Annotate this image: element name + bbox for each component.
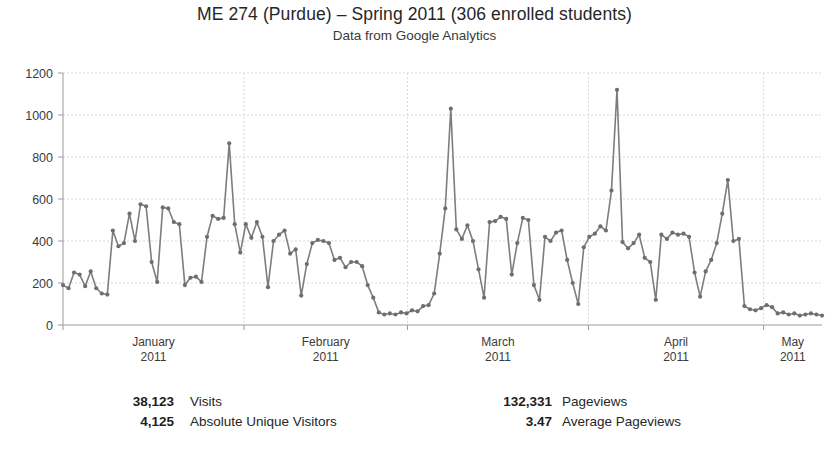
x-tick-month: March xyxy=(481,335,514,349)
x-axis-tick-label: May2011 xyxy=(733,335,829,365)
stat-value: 38,123 xyxy=(108,392,174,412)
plot-area: 020040060080010001200 xyxy=(0,60,829,330)
x-tick-month: February xyxy=(302,335,350,349)
x-tick-year: 2011 xyxy=(733,350,829,365)
stat-row: 4,125 Absolute Unique Visitors xyxy=(108,412,337,432)
svg-text:600: 600 xyxy=(32,193,53,207)
stat-label: Pageviews xyxy=(562,392,627,412)
stat-label: Average Pageviews xyxy=(562,412,681,432)
svg-text:1200: 1200 xyxy=(25,67,53,81)
x-axis-labels: January2011February2011March2011April201… xyxy=(0,333,829,379)
stat-value: 132,331 xyxy=(480,392,552,412)
svg-text:0: 0 xyxy=(46,319,53,333)
stat-row: 38,123 Visits xyxy=(108,392,337,412)
page-subtitle: Data from Google Analytics xyxy=(0,28,829,43)
x-axis-tick-label: January2011 xyxy=(93,335,213,365)
visits-line-chart: 020040060080010001200 xyxy=(0,60,829,332)
stat-value: 3.47 xyxy=(480,412,552,432)
x-axis-tick-label: April2011 xyxy=(616,335,736,365)
x-tick-month: January xyxy=(132,335,175,349)
stats-column-left: 38,123 Visits 4,125 Absolute Unique Visi… xyxy=(108,392,337,432)
x-tick-year: 2011 xyxy=(438,350,558,365)
stat-label: Absolute Unique Visitors xyxy=(190,412,337,432)
page-title: ME 274 (Purdue) – Spring 2011 (306 enrol… xyxy=(0,4,829,25)
stat-row: 3.47 Average Pageviews xyxy=(480,412,681,432)
x-tick-year: 2011 xyxy=(616,350,736,365)
x-tick-month: April xyxy=(664,335,688,349)
title-block: ME 274 (Purdue) – Spring 2011 (306 enrol… xyxy=(0,4,829,43)
svg-text:400: 400 xyxy=(32,235,53,249)
x-tick-year: 2011 xyxy=(266,350,386,365)
x-tick-year: 2011 xyxy=(93,350,213,365)
stat-value: 4,125 xyxy=(108,412,174,432)
stats-column-right: 132,331 Pageviews 3.47 Average Pageviews xyxy=(480,392,681,432)
x-tick-month: May xyxy=(781,335,804,349)
summary-stats: 38,123 Visits 4,125 Absolute Unique Visi… xyxy=(0,392,829,442)
analytics-chart-page: ME 274 (Purdue) – Spring 2011 (306 enrol… xyxy=(0,0,829,469)
x-axis-tick-label: February2011 xyxy=(266,335,386,365)
x-axis-tick-label: March2011 xyxy=(438,335,558,365)
svg-text:1000: 1000 xyxy=(25,109,53,123)
stat-row: 132,331 Pageviews xyxy=(480,392,681,412)
svg-text:800: 800 xyxy=(32,151,53,165)
svg-text:200: 200 xyxy=(32,277,53,291)
stat-label: Visits xyxy=(190,392,222,412)
